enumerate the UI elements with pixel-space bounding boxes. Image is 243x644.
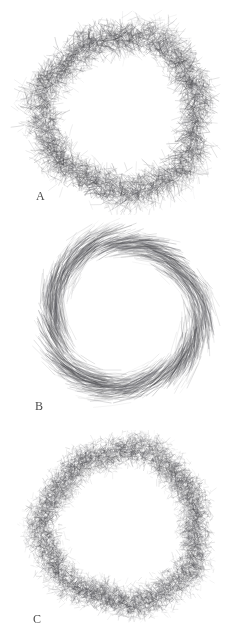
- panel-label-a: A: [36, 190, 45, 202]
- figure-root: A B C: [0, 0, 243, 644]
- panel-b: B: [0, 215, 243, 430]
- panel-label-c: C: [33, 613, 42, 625]
- panel-a: A: [0, 0, 243, 215]
- panel-c: C: [0, 430, 243, 644]
- annulus-drawing-a: [0, 0, 243, 215]
- annulus-drawing-b: [0, 215, 243, 430]
- panel-label-b: B: [35, 400, 44, 412]
